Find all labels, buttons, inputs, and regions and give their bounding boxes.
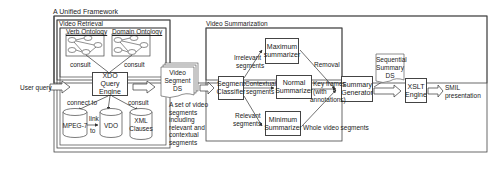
segment-classifier-box: Segment Classifier xyxy=(218,76,244,100)
irrelevant-label-2: segments xyxy=(236,62,264,70)
user-query-label: User query xyxy=(20,84,52,92)
xslt-engine-box: XSLT Engine xyxy=(405,78,427,103)
xdo-query-engine-box: XDO Query Engine xyxy=(92,72,128,96)
xml-label: XML xyxy=(129,117,153,125)
vdo-label: VDO xyxy=(99,122,123,130)
consult-label-left: consult xyxy=(70,61,91,69)
link-label: link xyxy=(89,115,99,123)
engine-line3: Engine xyxy=(99,88,121,96)
consult-xml-label: consult xyxy=(128,99,149,107)
segment-ds-line1: Video xyxy=(161,69,194,77)
caption-line: segments xyxy=(169,109,208,117)
xslt-line1: XSLT xyxy=(408,83,425,91)
classifier-line2: Classifier xyxy=(217,88,246,96)
classifier-line1: Segment xyxy=(217,80,245,88)
to-label: to xyxy=(90,127,95,135)
keyframes-label-3: annotations) xyxy=(310,96,346,104)
normal-line2: Summarizer xyxy=(275,87,313,95)
keyframes-label-2: (with xyxy=(313,88,327,96)
video-segment-ds: Video Segment DS xyxy=(161,69,194,93)
contextual-label-2: segments xyxy=(246,88,274,96)
engine-line2: Query xyxy=(100,80,119,88)
min-line2: Summarizer xyxy=(264,124,302,132)
generator-line1: Summary xyxy=(342,81,372,89)
segment-ds-caption: A set of video segments including releva… xyxy=(169,101,208,146)
keyframes-label-1: Key frames xyxy=(313,80,346,88)
engine-line1: XDO xyxy=(102,72,117,80)
caption-line: A set of video xyxy=(169,101,208,109)
smil-presentation-output: SMIL presentation xyxy=(445,84,481,100)
segment-ds-line3: DS xyxy=(161,85,194,93)
caption-line: including xyxy=(169,116,208,124)
normal-summarizer-box: Normal Summarizer xyxy=(276,75,312,99)
caption-line: relevant and xyxy=(169,124,208,132)
minimum-summarizer-box: Minimum Summarizer xyxy=(265,111,301,136)
normal-line1: Normal xyxy=(283,79,306,87)
smil-line2: presentation xyxy=(445,92,481,100)
clauses-label: Clauses xyxy=(129,125,153,133)
sequential-line3: DS xyxy=(376,72,404,80)
connect-to-label: connect to xyxy=(67,99,97,107)
max-line2: summarizer xyxy=(264,51,301,59)
video-retrieval-title: Video Retrieval xyxy=(59,20,103,28)
caption-line: segments xyxy=(169,139,208,147)
caption-line: contextual xyxy=(169,131,208,139)
sequential-summary-ds: Sequential Summary DS xyxy=(376,56,404,80)
relevant-label-2: segments xyxy=(233,120,261,128)
consult-label-right: consult xyxy=(124,61,145,69)
domain-ontology-label: Domain Ontology xyxy=(112,28,162,36)
sequential-line2: Summary xyxy=(376,64,404,72)
irrelevant-label-1: Irrelevant xyxy=(234,54,261,62)
mpeg7-label: MPEG-7 xyxy=(62,122,88,130)
maximum-summarizer-box: Maximum summarizer xyxy=(265,38,299,64)
verb-ontology-label: Verb Ontology xyxy=(66,28,107,36)
relevant-label-1: Relevant xyxy=(235,112,261,120)
segment-ds-line2: Segment xyxy=(161,77,194,85)
min-line1: Minimum xyxy=(269,116,297,124)
whole-video-segments-label: Whole video segments xyxy=(303,124,369,132)
max-line1: Maximum xyxy=(267,43,297,51)
removal-label: Removal xyxy=(314,61,340,69)
video-summarization-title: Video Summarization xyxy=(206,20,268,28)
xslt-line2: Engine xyxy=(405,91,427,99)
contextual-label-1: Contextual xyxy=(245,80,276,88)
sequential-line1: Sequential xyxy=(376,56,404,64)
smil-line1: SMIL xyxy=(445,84,481,92)
